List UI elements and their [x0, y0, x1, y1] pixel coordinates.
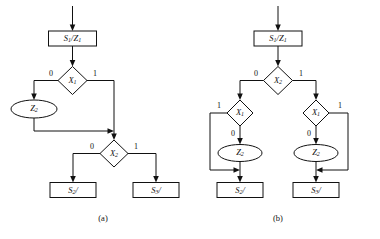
panel-a-oval-to-junction — [34, 118, 114, 134]
panel-b-dtop-one-path — [293, 81, 319, 101]
panel-b-label-top-right: 1 — [299, 69, 303, 78]
panel-a-d2-zero-path — [70, 154, 100, 183]
panel-a-d1-zero-path — [31, 81, 58, 101]
panel-b-right-bypass-path — [316, 113, 348, 173]
asm-chart-figure: S1/Z1 X1 0 1 Z2 — [0, 0, 380, 239]
panel-b-label-right-bypass: 1 — [338, 101, 342, 110]
panel-b-label-right-down: 0 — [307, 129, 311, 138]
panel-a-entry-arrow — [70, 6, 76, 31]
panel-b-dtop-zero-path — [237, 81, 263, 101]
panel-a: S1/Z1 X1 0 1 Z2 — [11, 6, 179, 223]
panel-a-box-to-d1 — [70, 46, 76, 67]
panel-b-label-top-left: 0 — [254, 69, 258, 78]
panel-b-caption: (b) — [273, 213, 283, 223]
panel-a-label-d2-right: 1 — [134, 142, 138, 151]
panel-b-label-left-bypass: 1 — [217, 101, 221, 110]
panel-b-label-left-down: 0 — [231, 129, 235, 138]
panel-a-label-d1-left: 0 — [49, 69, 53, 78]
panel-b-entry-arrow — [275, 6, 281, 31]
panel-a-d2-one-path — [128, 154, 159, 183]
panel-b-right-oval-to-box — [313, 162, 319, 183]
panel-b-box-to-dtop — [275, 46, 281, 67]
panel-b: S1/Z1 X2 0 1 — [210, 6, 348, 223]
panel-b-left-to-oval — [237, 126, 243, 145]
panel-a-label-d1-right: 1 — [93, 69, 97, 78]
figure-canvas: S1/Z1 X1 0 1 Z2 — [0, 0, 380, 239]
panel-a-caption: (a) — [98, 213, 108, 223]
panel-b-left-oval-to-box — [237, 162, 243, 183]
panel-b-right-to-oval — [313, 126, 319, 145]
panel-a-label-d2-left: 0 — [90, 142, 94, 151]
